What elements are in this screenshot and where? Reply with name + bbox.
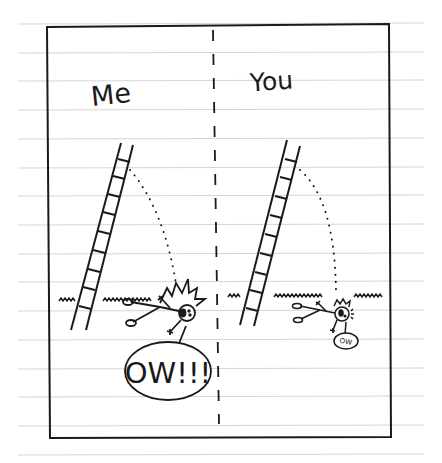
right-grass: [228, 294, 382, 297]
left-speech-bubble: OW!!!: [125, 326, 211, 400]
right-speech-bubble: OW: [334, 322, 358, 349]
left-grass: [59, 298, 151, 301]
small-impact-icon: [334, 299, 350, 307]
label-me: Me: [89, 77, 132, 112]
left-fall-trajectory: [130, 170, 177, 290]
label-you: You: [248, 65, 294, 97]
right-fall-trajectory: [300, 170, 336, 292]
paper-lines: [18, 23, 424, 455]
comic-canvas: Me You OW!!!: [0, 0, 442, 463]
impact-burst-icon: [160, 279, 205, 306]
left-speech-text: OW!!!: [125, 356, 211, 390]
panel-divider: [213, 30, 219, 424]
